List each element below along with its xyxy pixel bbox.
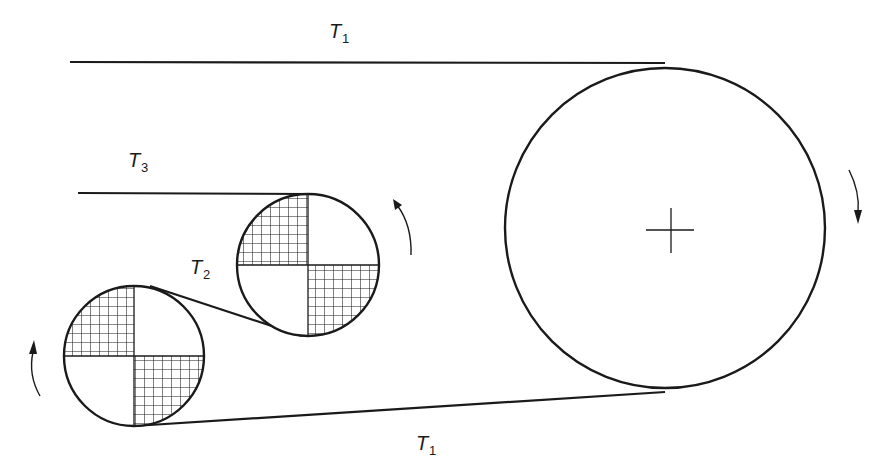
- lower-small-pulley: [64, 286, 204, 426]
- svg-text:1: 1: [429, 443, 436, 458]
- upper-small-pulley: [237, 194, 379, 336]
- label-t2: T 2: [190, 256, 210, 282]
- belt-pulley-diagram: T 1 T 3 T 2 T 1: [0, 0, 884, 475]
- rotation-arrow-icon-upper: [393, 199, 411, 255]
- top-belt-line: [70, 62, 665, 63]
- svg-text:T: T: [128, 149, 142, 171]
- large-pulley: [505, 68, 825, 388]
- bottom-belt-line: [134, 392, 665, 426]
- svg-text:2: 2: [203, 267, 210, 282]
- label-bottom-t1: T 1: [416, 432, 436, 458]
- svg-text:3: 3: [141, 160, 148, 175]
- rotation-arrow-icon-lower: [29, 340, 40, 396]
- svg-text:1: 1: [342, 31, 349, 46]
- svg-text:T: T: [416, 432, 430, 454]
- label-top-t1: T 1: [329, 20, 349, 46]
- svg-text:T: T: [329, 20, 343, 42]
- rotation-arrow-icon-large: [849, 170, 862, 224]
- label-t3: T 3: [128, 149, 148, 175]
- svg-text:T: T: [190, 256, 204, 278]
- input-strand-line: [78, 193, 308, 194]
